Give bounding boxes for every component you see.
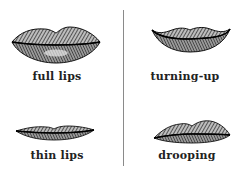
upturned-lips-icon — [150, 22, 232, 58]
center-divider — [123, 10, 124, 166]
full-lips-icon — [10, 20, 102, 66]
drooping-lips-icon — [152, 116, 232, 146]
label-full-lips: full lips — [33, 70, 82, 83]
label-thin-lips: thin lips — [30, 149, 83, 162]
label-turning-up: turning-up — [151, 70, 220, 83]
thin-lips-icon — [14, 123, 96, 143]
label-drooping: drooping — [158, 149, 215, 162]
